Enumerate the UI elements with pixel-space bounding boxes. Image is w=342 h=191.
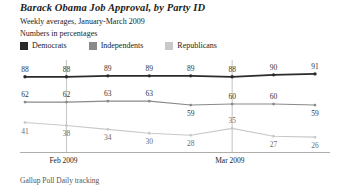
data-point [24, 101, 27, 104]
data-label: 41 [21, 127, 29, 136]
data-point [189, 134, 192, 137]
data-point [314, 136, 317, 139]
chart-figure: Barack Obama Job Approval, by Party ID W… [0, 0, 342, 191]
data-label: 34 [104, 133, 112, 142]
data-label: 35 [228, 116, 236, 125]
data-point [148, 74, 151, 77]
data-label: 38 [63, 129, 71, 138]
data-label: 88 [63, 65, 71, 74]
data-point [65, 75, 68, 78]
data-label: 88 [21, 65, 29, 74]
data-point [231, 103, 234, 106]
data-point [148, 132, 151, 135]
data-label: 63 [104, 89, 112, 98]
data-label: 26 [311, 141, 319, 150]
data-label: 91 [311, 62, 319, 71]
data-point [65, 101, 68, 104]
data-point [23, 75, 26, 78]
data-label: 62 [63, 90, 71, 99]
data-label: 62 [21, 90, 29, 99]
x-axis-tick-mar: Mar 2009 [215, 156, 244, 165]
data-point [189, 74, 192, 77]
data-label: 63 [146, 89, 154, 98]
data-point [65, 124, 68, 127]
data-point [272, 103, 275, 106]
x-axis-tick-feb: Feb 2009 [49, 156, 77, 165]
data-label: 90 [270, 63, 278, 72]
data-point [106, 74, 109, 77]
data-point [272, 135, 275, 138]
data-label: 89 [187, 64, 195, 73]
data-point [231, 127, 234, 130]
data-label: 60 [270, 92, 278, 101]
data-label: 89 [146, 64, 154, 73]
data-label: 60 [228, 92, 236, 101]
chart-source-note: Gallup Poll Daily tracking [20, 176, 99, 185]
data-point [106, 100, 109, 103]
data-label: 59 [187, 109, 195, 118]
data-point [272, 73, 275, 76]
data-point [24, 121, 27, 124]
data-label: 88 [228, 65, 236, 74]
data-point [230, 75, 233, 78]
data-label: 59 [311, 109, 319, 118]
data-label: 27 [270, 140, 278, 149]
data-point [148, 100, 151, 103]
data-point [189, 104, 192, 107]
series-line-democrats [25, 74, 315, 77]
data-label: 30 [146, 137, 154, 146]
data-point [106, 128, 109, 131]
data-point [314, 104, 317, 107]
series-line-independents [25, 101, 315, 105]
data-label: 28 [187, 139, 195, 148]
data-point [313, 72, 316, 75]
data-label: 89 [104, 64, 112, 73]
